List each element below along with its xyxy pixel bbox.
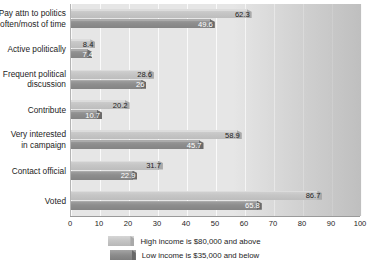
bar-high	[71, 130, 242, 139]
bar-highlight	[71, 130, 238, 132]
bar-value-label: 28.6	[132, 70, 152, 79]
legend-swatch-high	[108, 236, 134, 246]
bar-highlight	[71, 9, 248, 11]
x-tick-label: 70	[269, 219, 277, 228]
category-label: Frequent political discussion	[0, 69, 66, 90]
bar-value-label: 65.8	[240, 201, 260, 210]
category-label: Voted	[0, 196, 66, 207]
bar-value-label: 49.6	[193, 20, 213, 29]
bar-value-label: 26	[124, 80, 144, 89]
legend-item[interactable]: High income is $80,000 and above	[108, 236, 260, 246]
bar-highlight	[71, 140, 200, 142]
category-label: Active politically	[0, 44, 66, 55]
legend-item[interactable]: Low income is $35,000 and below	[110, 250, 259, 260]
bar-value-label: 86.7	[300, 191, 320, 200]
bar-value-label: 45.7	[182, 141, 202, 150]
gridline	[245, 4, 246, 216]
x-tick-label: 30	[153, 219, 161, 228]
x-tick-label: 80	[298, 219, 306, 228]
bar-chart: Pay attn to politics often/most of timeA…	[0, 0, 369, 272]
bar-value-label: 8.4	[73, 40, 93, 49]
gridline	[158, 4, 159, 216]
x-tick-label: 60	[240, 219, 248, 228]
x-tick-label: 40	[182, 219, 190, 228]
gridline	[303, 4, 304, 216]
axis-line	[70, 216, 360, 217]
bar-highlight	[71, 191, 318, 193]
legend-swatch-low	[110, 250, 136, 260]
bar-highlight	[71, 201, 258, 203]
x-tick-label: 0	[68, 219, 72, 228]
bar-highlight	[71, 19, 211, 21]
bar-value-label: 58.9	[220, 131, 240, 140]
x-tick-label: 20	[124, 219, 132, 228]
bar-value-label: 7.4	[73, 50, 93, 59]
category-label: Pay attn to politics often/most of time	[0, 8, 66, 29]
category-label: Contact official	[0, 166, 66, 177]
bar-value-label: 22.9	[115, 171, 135, 180]
bar-value-label: 20.2	[108, 101, 128, 110]
plot-area: 62.349.68.47.428.62620.210.758.945.731.7…	[70, 4, 361, 216]
legend: High income is $80,000 and aboveLow inco…	[0, 236, 369, 260]
x-tick-label: 10	[95, 219, 103, 228]
bar-high	[71, 9, 252, 18]
x-tick-label: 90	[327, 219, 335, 228]
gridline	[274, 4, 275, 216]
gridline	[129, 4, 130, 216]
gridline	[187, 4, 188, 216]
legend-swatch-cap	[130, 236, 134, 246]
plot-shading	[233, 4, 361, 216]
legend-label: Low income is $35,000 and below	[142, 251, 259, 260]
bar-low	[71, 201, 262, 210]
gridline	[216, 4, 217, 216]
category-label: Contribute	[0, 105, 66, 116]
x-tick-label: 50	[211, 219, 219, 228]
category-label: Very interested in campaign	[0, 129, 66, 150]
x-tick-label: 100	[354, 219, 367, 228]
legend-label: High income is $80,000 and above	[140, 237, 260, 246]
bar-value-label: 31.7	[141, 161, 161, 170]
bar-value-label: 10.7	[80, 111, 100, 120]
gridline	[332, 4, 333, 216]
x-axis: 0102030405060708090100	[70, 216, 360, 230]
gridline	[361, 4, 362, 216]
bar-high	[71, 191, 322, 200]
bar-value-label: 62.3	[230, 10, 250, 19]
legend-swatch-cap	[132, 250, 136, 260]
